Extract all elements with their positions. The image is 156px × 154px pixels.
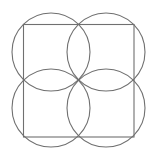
circle-bottom-right: [67, 69, 145, 147]
diagram-canvas: [0, 0, 156, 154]
square-four-circles-diagram: [0, 0, 156, 154]
